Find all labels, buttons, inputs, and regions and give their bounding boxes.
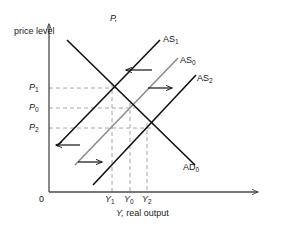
output-guide-lines [112, 83, 147, 192]
tick-subscript: 2 [148, 198, 152, 205]
curve-label-as0: AS0 [180, 56, 196, 65]
curve-symbol: AS [180, 55, 192, 65]
curve-subscript: 2 [209, 77, 213, 84]
tick-label-y0: Y0 [124, 195, 134, 204]
shift-arrows [56, 70, 172, 162]
curve-subscript: 0 [192, 59, 196, 66]
tick-label-p0: P0 [29, 103, 39, 112]
tick-subscript: 0 [35, 106, 39, 113]
curve-subscript: 0 [196, 166, 200, 173]
curve-ad0 [67, 40, 195, 165]
x-axis-label: Y, real output [116, 209, 169, 218]
x-axis-label-rest: real output [126, 208, 169, 218]
curve-symbol: AS [163, 34, 175, 44]
tick-subscript: 2 [35, 126, 39, 133]
curve-label-ad0: AD0 [183, 163, 199, 172]
tick-label-y1: Y1 [105, 195, 115, 204]
tick-subscript: 1 [35, 86, 39, 93]
curve-subscript: 1 [175, 38, 179, 45]
origin-label: 0 [39, 195, 44, 204]
curve-label-as2: AS2 [197, 74, 213, 83]
curve-symbol: AS [197, 73, 209, 83]
tick-subscript: 0 [130, 198, 134, 205]
x-axis-symbol: Y, [116, 208, 124, 218]
tick-label-p1: P1 [29, 83, 39, 92]
y-axis-label: price level [14, 27, 55, 36]
ad-as-diagram: P, price level Y, real output P1 P0 P2 0… [0, 0, 286, 235]
tick-subscript: 1 [111, 198, 115, 205]
curve-symbol: AD [183, 162, 196, 172]
curve-label-as1: AS1 [163, 35, 179, 44]
y-axis-symbol: P, [110, 14, 117, 23]
tick-label-p2: P2 [29, 123, 39, 132]
tick-label-y2: Y2 [142, 195, 152, 204]
